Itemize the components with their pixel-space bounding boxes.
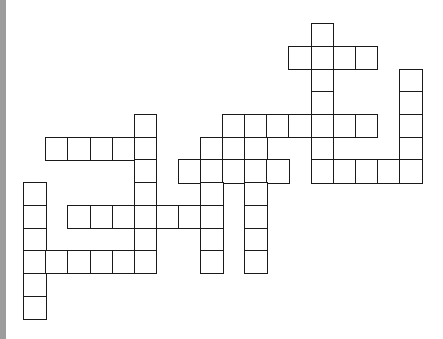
- crossword-grid: [0, 0, 443, 339]
- crossword-cell[interactable]: [311, 159, 335, 183]
- crossword-cell[interactable]: [134, 182, 158, 206]
- crossword-cell[interactable]: [134, 114, 158, 138]
- crossword-cell[interactable]: [377, 159, 401, 183]
- crossword-cell[interactable]: [45, 250, 69, 274]
- crossword-cell[interactable]: [244, 250, 268, 274]
- crossword-cell[interactable]: [112, 137, 136, 161]
- crossword-cell[interactable]: [288, 114, 312, 138]
- crossword-cell[interactable]: [134, 250, 158, 274]
- crossword-cell[interactable]: [200, 159, 224, 183]
- crossword-cell[interactable]: [90, 250, 114, 274]
- crossword-cell[interactable]: [311, 69, 335, 93]
- crossword-cell[interactable]: [244, 182, 268, 206]
- crossword-cell[interactable]: [134, 137, 158, 161]
- crossword-cell[interactable]: [134, 159, 158, 183]
- crossword-cell[interactable]: [399, 114, 423, 138]
- crossword-cell[interactable]: [311, 23, 335, 47]
- crossword-cell[interactable]: [311, 46, 335, 70]
- crossword-cell[interactable]: [244, 114, 268, 138]
- crossword-cell[interactable]: [112, 205, 136, 229]
- crossword-cell[interactable]: [23, 182, 47, 206]
- crossword-cell[interactable]: [311, 91, 335, 115]
- crossword-cell[interactable]: [23, 250, 47, 274]
- crossword-cell[interactable]: [244, 137, 268, 161]
- crossword-cell[interactable]: [178, 159, 202, 183]
- crossword-cell[interactable]: [156, 205, 180, 229]
- crossword-cell[interactable]: [311, 114, 335, 138]
- crossword-cell[interactable]: [355, 114, 379, 138]
- crossword-cell[interactable]: [333, 114, 357, 138]
- crossword-cell[interactable]: [45, 137, 69, 161]
- crossword-cell[interactable]: [288, 46, 312, 70]
- crossword-cell[interactable]: [23, 228, 47, 252]
- crossword-cell[interactable]: [244, 205, 268, 229]
- crossword-cell[interactable]: [399, 91, 423, 115]
- crossword-cell[interactable]: [112, 250, 136, 274]
- crossword-cell[interactable]: [90, 137, 114, 161]
- crossword-cell[interactable]: [134, 228, 158, 252]
- crossword-cell[interactable]: [222, 159, 246, 183]
- crossword-cell[interactable]: [355, 159, 379, 183]
- crossword-cell[interactable]: [67, 250, 91, 274]
- crossword-cell[interactable]: [399, 137, 423, 161]
- crossword-cell[interactable]: [200, 228, 224, 252]
- crossword-cell[interactable]: [222, 114, 246, 138]
- crossword-cell[interactable]: [399, 159, 423, 183]
- crossword-cell[interactable]: [90, 205, 114, 229]
- crossword-cell[interactable]: [67, 137, 91, 161]
- crossword-cell[interactable]: [311, 137, 335, 161]
- crossword-cell[interactable]: [333, 159, 357, 183]
- crossword-cell[interactable]: [67, 205, 91, 229]
- crossword-cell[interactable]: [266, 159, 290, 183]
- crossword-cell[interactable]: [355, 46, 379, 70]
- crossword-cell[interactable]: [222, 137, 246, 161]
- crossword-cell[interactable]: [178, 205, 202, 229]
- crossword-cell[interactable]: [23, 296, 47, 320]
- crossword-cell[interactable]: [23, 273, 47, 297]
- crossword-cell[interactable]: [200, 182, 224, 206]
- crossword-cell[interactable]: [244, 228, 268, 252]
- crossword-cell[interactable]: [244, 159, 268, 183]
- crossword-cell[interactable]: [134, 205, 158, 229]
- crossword-cell[interactable]: [266, 114, 290, 138]
- crossword-cell[interactable]: [23, 205, 47, 229]
- crossword-cell[interactable]: [200, 205, 224, 229]
- crossword-cell[interactable]: [200, 137, 224, 161]
- crossword-cell[interactable]: [200, 250, 224, 274]
- crossword-cell[interactable]: [333, 46, 357, 70]
- crossword-cell[interactable]: [399, 69, 423, 93]
